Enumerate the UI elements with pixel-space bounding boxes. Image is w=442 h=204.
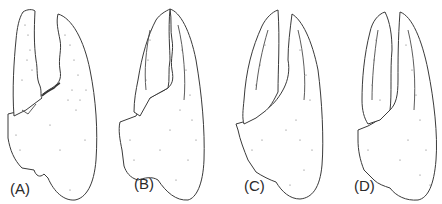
panel-label-c: (C)	[244, 178, 265, 193]
claw-d-drawing	[358, 12, 437, 200]
panel-label-a: (A)	[10, 181, 30, 196]
claw-b-drawing	[119, 9, 204, 200]
panel-label-d: (D)	[354, 178, 375, 193]
claw-a-drawing	[8, 10, 97, 200]
claw-figure	[0, 0, 442, 204]
panel-label-b: (B)	[134, 176, 154, 191]
claw-c-drawing	[236, 10, 323, 199]
